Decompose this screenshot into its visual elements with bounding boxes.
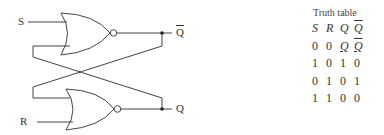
r-label: R xyxy=(20,116,27,127)
table-row: 1 0 1 0 xyxy=(312,55,368,73)
truth-table-header: S R Q Q xyxy=(312,20,368,38)
cell: 1 xyxy=(312,90,326,108)
s-label: S xyxy=(18,16,24,27)
header-q: Q xyxy=(340,20,354,38)
cell: 0 xyxy=(354,90,368,108)
cell: 0 xyxy=(312,73,326,91)
cell: 0 xyxy=(340,90,354,108)
feedback-wire-qbar-to-bottom-gate xyxy=(33,33,162,98)
cell: 0 xyxy=(326,38,340,56)
q-junction-dot xyxy=(160,107,164,111)
top-gate-bubble xyxy=(110,30,117,37)
header-qbar: Q xyxy=(354,20,368,38)
cell: 1 xyxy=(354,73,368,91)
cell: 0 xyxy=(326,55,340,73)
table-row: 0 0 Q Q xyxy=(312,38,368,56)
cell: 1 xyxy=(326,90,340,108)
feedback-wire-q-to-top-gate xyxy=(33,46,162,109)
header-r: R xyxy=(326,20,340,38)
q-label: Q xyxy=(176,103,184,114)
cell: 1 xyxy=(312,55,326,73)
cell: 0 xyxy=(354,55,368,73)
truth-table: S R Q Q 0 0 Q Q 1 0 1 0 0 1 0 1 1 1 0 0 xyxy=(312,20,368,108)
qbar-label: Q xyxy=(176,27,184,38)
qbar-junction-dot xyxy=(160,31,164,35)
top-nor-gate xyxy=(61,13,110,55)
cell: 0 xyxy=(340,73,354,91)
table-row: 0 1 0 1 xyxy=(312,73,368,91)
bottom-nor-gate xyxy=(66,89,114,130)
cell: Q xyxy=(354,38,368,56)
sr-latch-circuit xyxy=(0,0,200,135)
table-row: 1 1 0 0 xyxy=(312,90,368,108)
bottom-gate-bubble xyxy=(114,106,121,113)
cell: Q xyxy=(340,38,354,56)
header-s: S xyxy=(312,20,326,38)
cell: 1 xyxy=(340,55,354,73)
cell: 1 xyxy=(326,73,340,91)
cell: 0 xyxy=(312,38,326,56)
truth-table-title: Truth table xyxy=(313,7,357,18)
